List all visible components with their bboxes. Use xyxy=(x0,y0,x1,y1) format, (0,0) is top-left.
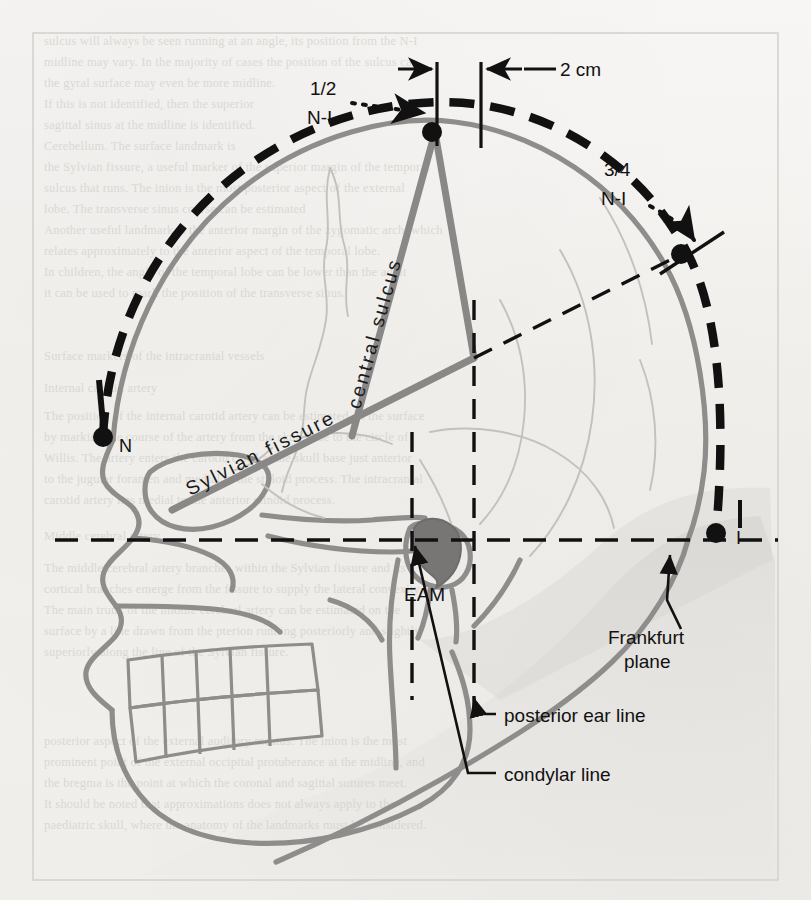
facial-profile xyxy=(86,440,139,710)
central-sulcus-line-lower xyxy=(435,132,474,358)
nasion-stem xyxy=(99,380,103,424)
condylar-neck-posterior xyxy=(452,590,457,642)
maxilla xyxy=(116,606,280,632)
sylvian-fissure-line xyxy=(172,358,474,510)
mandibular-ramus-anterior xyxy=(389,560,398,768)
teeth-group xyxy=(128,644,322,762)
posterior-ear-line-label: posterior ear line xyxy=(504,705,646,726)
inion-label: I xyxy=(736,528,741,548)
coronoid-notch xyxy=(330,600,382,640)
nasion-point-marker[interactable] xyxy=(93,427,113,447)
inion-point-marker[interactable] xyxy=(706,523,726,543)
frankfurt-plane-label-line1: Frankfurt xyxy=(608,627,685,648)
figure-page: sulcus will always be seen running at an… xyxy=(0,0,811,900)
frankfurt-plane-label-line2: plane xyxy=(624,651,671,672)
nasal-aperture xyxy=(133,538,233,590)
condylar-line-label: condylar line xyxy=(504,764,611,785)
central-sulcus-label: central sulcus xyxy=(343,255,406,411)
nasion-label: N xyxy=(119,436,132,456)
three-quarter-ni-point-marker[interactable] xyxy=(671,244,691,264)
two-cm-label: 2 cm xyxy=(560,59,601,80)
central-sulcus-label-group: central sulcus xyxy=(343,255,406,411)
lower-dental-arch xyxy=(130,690,322,762)
half-ni-label-line2: N-I xyxy=(307,107,332,128)
three-quarter-ni-label-line1: 3/4 xyxy=(604,159,631,180)
half-ni-point-marker[interactable] xyxy=(422,122,442,142)
three-quarter-ni-label-line2: N-I xyxy=(601,188,626,209)
skull-diagram: 2 cm 1/2 N-I 3/4 N-I N I central sulcus … xyxy=(0,0,811,900)
zygomatic-arch xyxy=(262,515,425,521)
half-ni-label-line1: 1/2 xyxy=(310,78,336,99)
cortical-detail-lines xyxy=(235,168,655,556)
